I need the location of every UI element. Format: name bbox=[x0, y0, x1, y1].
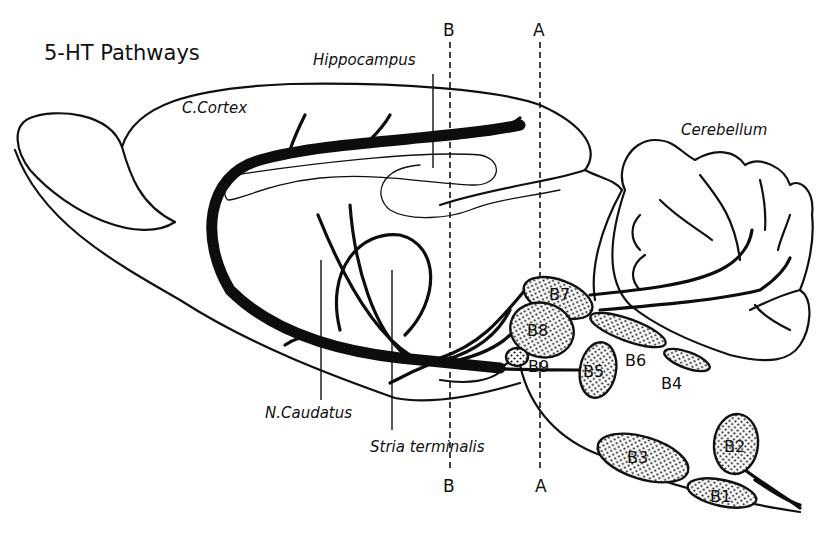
label-b7: B7 bbox=[549, 285, 570, 304]
label-b8: B8 bbox=[527, 321, 548, 340]
section-label-a-bottom: A bbox=[535, 476, 547, 496]
medial-forebrain-bundle bbox=[212, 125, 520, 368]
label-cerebral-cortex: C.Cortex bbox=[182, 99, 247, 117]
thalamus-outline bbox=[381, 165, 560, 218]
cortex-lower-border bbox=[122, 147, 175, 222]
label-cerebellum: Cerebellum bbox=[681, 121, 767, 139]
cerebellum-folia bbox=[633, 175, 801, 330]
section-label-b-bottom: B bbox=[443, 476, 455, 496]
ventral-branch-2 bbox=[390, 362, 435, 383]
nucleus-b4 bbox=[662, 344, 713, 375]
label-b5: B5 bbox=[583, 362, 604, 381]
label-stria-terminalis: Stria terminalis bbox=[370, 438, 485, 456]
section-label-b-top: B bbox=[443, 20, 455, 40]
label-b4: B4 bbox=[661, 374, 682, 393]
serotonin-pathways-diagram: 5-HT Pathways B A B A C.Cortex Hippocamp… bbox=[0, 0, 831, 538]
section-label-a-top: A bbox=[533, 20, 545, 40]
label-b6: B6 bbox=[625, 351, 646, 370]
figure-title: 5-HT Pathways bbox=[44, 41, 200, 65]
label-b1: B1 bbox=[710, 487, 731, 506]
nucleus-b9 bbox=[506, 348, 528, 366]
label-nucleus-caudatus: N.Caudatus bbox=[265, 404, 352, 422]
striatal-fiber-2 bbox=[350, 205, 405, 355]
label-b9: B9 bbox=[528, 357, 549, 376]
label-hippocampus: Hippocampus bbox=[313, 51, 416, 69]
label-b2: B2 bbox=[724, 437, 745, 456]
label-b3: B3 bbox=[627, 448, 648, 467]
olfactory-bulb-outline bbox=[18, 113, 175, 230]
raphe-fiber-4 bbox=[460, 368, 580, 370]
cortical-branch-1 bbox=[290, 115, 305, 150]
